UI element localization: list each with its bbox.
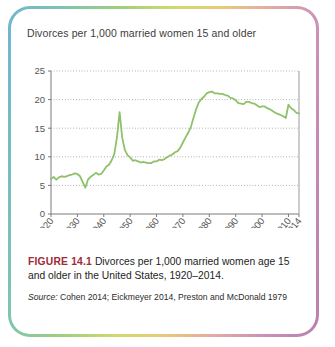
figure-caption-block: FIGURE 14.1 Divorces per 1,000 married w… [28, 255, 302, 304]
gridlines [51, 71, 299, 185]
svg-text:5: 5 [40, 180, 45, 191]
svg-text:1960: 1960 [139, 215, 161, 228]
svg-text:10: 10 [34, 151, 45, 162]
svg-text:20: 20 [34, 94, 45, 105]
svg-text:15: 15 [34, 123, 45, 134]
chart-title: Divorces per 1,000 married women 15 and … [27, 27, 256, 39]
source-citations: Cohen 2014; Eickmeyer 2014, Preston and … [58, 292, 287, 302]
y-axis-tick-labels: 0510152025 [34, 65, 51, 219]
svg-text:1970: 1970 [166, 215, 188, 228]
source-label: Source: [28, 292, 58, 302]
figure-caption: FIGURE 14.1 Divorces per 1,000 married w… [28, 255, 302, 283]
figure-inner: Divorces per 1,000 married women 15 and … [11, 9, 316, 334]
figure-card: Divorces per 1,000 married women 15 and … [8, 6, 319, 337]
svg-text:1980: 1980 [192, 215, 214, 228]
svg-text:1950: 1950 [113, 215, 135, 228]
divorce-rate-series [51, 92, 299, 188]
figure-number-label: FIGURE 14.1 [28, 256, 92, 267]
svg-text:1940: 1940 [87, 215, 109, 228]
svg-text:2000: 2000 [245, 215, 267, 228]
svg-text:1990: 1990 [219, 215, 241, 228]
svg-text:1920: 1920 [34, 215, 56, 228]
chart-plot-area: 0510152025 19201930194019501960197019801… [21, 43, 311, 228]
x-axis-tick-labels: 1920193019401950196019701980199020002010… [34, 214, 304, 228]
svg-text:25: 25 [34, 65, 45, 76]
divorce-rate-line-chart: 0510152025 19201930194019501960197019801… [21, 43, 311, 228]
figure-source-line: Source: Cohen 2014; Eickmeyer 2014, Pres… [28, 292, 302, 304]
svg-text:1930: 1930 [60, 215, 82, 228]
